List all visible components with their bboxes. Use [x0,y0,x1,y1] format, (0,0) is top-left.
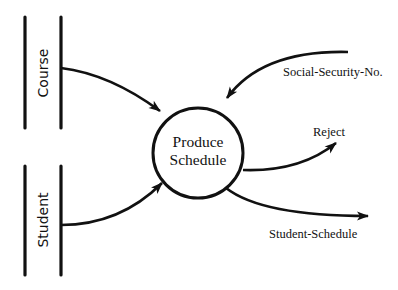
process-label-line2: Schedule [170,151,227,168]
flow-course-arrow [61,68,160,111]
data-store-course: Course [25,17,61,128]
flow-student-schedule-arrow [226,188,368,216]
process-label-line1: Produce [173,133,224,150]
flow-label-student-schedule: Student-Schedule [269,227,358,241]
flow-reject-arrow [243,143,336,170]
data-flow-diagram: Course Student Produce Schedule Social-S… [0,0,398,290]
flow-student-arrow [61,183,162,225]
flow-label-ssn: Social-Security-No. [283,65,383,79]
store-label-course: Course [35,49,51,98]
data-store-student: Student [25,166,61,275]
flow-label-reject: Reject [313,125,345,139]
process-produce-schedule: Produce Schedule [153,108,243,198]
store-label-student: Student [35,192,51,248]
